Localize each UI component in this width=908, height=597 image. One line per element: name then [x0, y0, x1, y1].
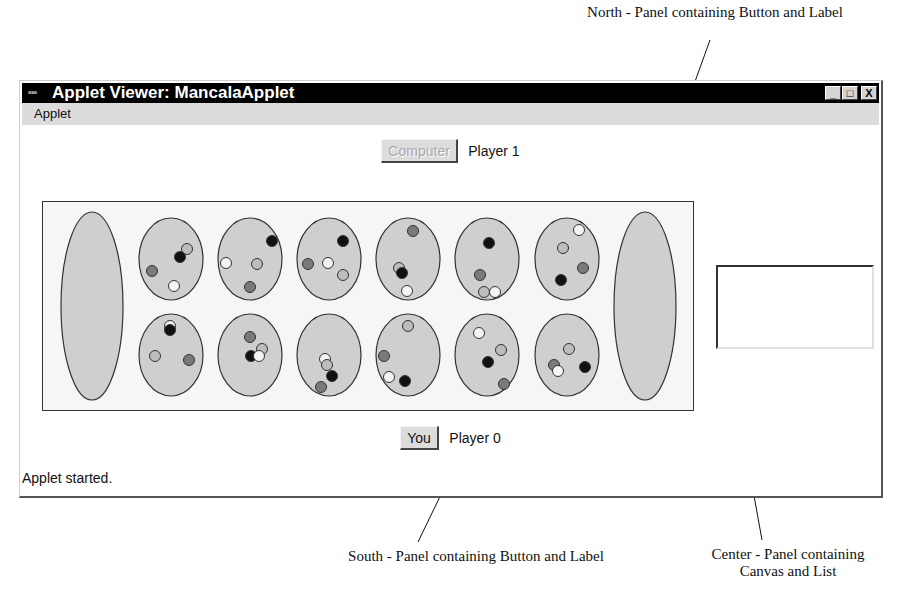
stone [408, 226, 419, 237]
menu-applet[interactable]: Applet [34, 106, 71, 121]
stone [496, 345, 507, 356]
stone [245, 282, 256, 293]
close-icon: X [865, 87, 872, 99]
stone [323, 258, 334, 269]
menu-bar: Applet [22, 103, 879, 125]
north-panel: Computer Player 1 [20, 139, 881, 167]
stone [322, 360, 333, 371]
stone [175, 252, 186, 263]
maximize-button[interactable]: □ [842, 86, 858, 100]
south-panel: You Player 0 [20, 426, 881, 454]
stone [475, 270, 486, 281]
stone [338, 270, 349, 281]
stone [147, 266, 158, 277]
computer-button[interactable]: Computer [381, 139, 457, 163]
player-0-label: Player 0 [449, 430, 500, 446]
stone [184, 355, 195, 366]
annotation-center: Center - Panel containing Canvas and Lis… [688, 546, 888, 580]
title-bar[interactable]: ▪▪▪ Applet Viewer: MancalaApplet _ □ X [22, 83, 879, 103]
annotation-north: North - Panel containing Button and Labe… [580, 4, 850, 21]
stone [397, 268, 408, 279]
stone [474, 328, 485, 339]
stone [221, 258, 232, 269]
minimize-button[interactable]: _ [825, 86, 841, 100]
store-left [61, 212, 123, 400]
minimize-icon: _ [830, 87, 836, 99]
stone [484, 238, 495, 249]
annotation-south: South - Panel containing Button and Labe… [316, 548, 636, 565]
stone [578, 263, 589, 274]
stone [574, 225, 585, 236]
stone [402, 286, 413, 297]
stone [558, 243, 569, 254]
stone [490, 287, 501, 298]
close-button[interactable]: X [861, 86, 877, 100]
stone [338, 236, 349, 247]
window-title: Applet Viewer: MancalaApplet [52, 83, 294, 103]
stone [556, 275, 567, 286]
stone [379, 351, 390, 362]
stone [479, 287, 490, 298]
stone [400, 376, 411, 387]
applet-viewer-window: ▪▪▪ Applet Viewer: MancalaApplet _ □ X A… [19, 80, 883, 498]
stone [327, 371, 338, 382]
stone [384, 372, 395, 383]
you-button[interactable]: You [400, 426, 439, 450]
java-app-icon[interactable]: ▪▪▪ [28, 86, 37, 98]
stone [165, 325, 176, 336]
pit-top-6[interactable] [535, 218, 599, 300]
player-1-label: Player 1 [468, 143, 519, 159]
stone [403, 321, 414, 332]
store-right [614, 212, 676, 400]
stone [303, 259, 314, 270]
move-list[interactable] [716, 265, 874, 349]
mancala-board-canvas[interactable] [42, 201, 694, 411]
pit-bottom-6[interactable] [535, 314, 599, 396]
maximize-icon: □ [847, 87, 854, 99]
stone [580, 362, 591, 373]
board-drawing [43, 202, 695, 412]
stone [267, 236, 278, 247]
stone [169, 281, 180, 292]
stone [483, 357, 494, 368]
stone [150, 351, 161, 362]
stone [553, 366, 564, 377]
stone [316, 382, 327, 393]
stone [254, 351, 265, 362]
stone [499, 379, 510, 390]
stone [252, 259, 263, 270]
stone [245, 332, 256, 343]
status-bar: Applet started. [22, 470, 112, 486]
stone [564, 344, 575, 355]
